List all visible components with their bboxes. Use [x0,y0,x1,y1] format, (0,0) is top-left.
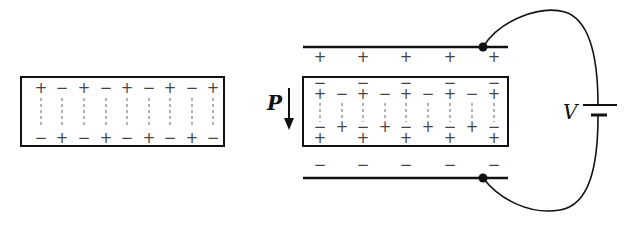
diagram-svg: +−+−+−+−+ −+−+−+−+− +++++ −−−−− −−−−− +−… [0,0,629,228]
charge-sign: + [35,79,48,97]
plate-charge-sign: − [488,156,501,174]
charge-sign: + [336,118,349,136]
right-capacitor: +++++ −−−−− −−−−− +−+−+−+−+ −+−+−+−+− ++… [266,10,617,211]
charge-sign: + [379,118,392,136]
surface-charge-sign: + [314,129,327,147]
charge-sign: + [400,85,413,103]
charge-sign: − [336,85,349,103]
battery-icon [583,105,617,115]
charge-sign: − [466,85,479,103]
polarization-label: P [266,91,283,115]
plate-charge-sign: + [314,48,327,66]
right-slab-top-signs: +−+−+−+−+ [314,85,501,103]
plate-charge-sign: − [400,156,413,174]
charge-sign: + [143,129,156,147]
charge-sign: + [164,79,177,97]
charge-sign: + [100,129,113,147]
left-bottom-signs: −+−+−+−+− [35,129,220,147]
surface-charge-sign: + [357,129,370,147]
charge-sign: + [422,118,435,136]
plate-charge-sign: + [357,48,370,66]
plate-charge-sign: + [488,48,501,66]
left-slab: +−+−+−+−+ −+−+−+−+− [21,77,224,147]
plate-charge-sign: + [400,48,413,66]
plate-charge-sign: − [444,156,457,174]
charge-sign: + [314,85,327,103]
voltage-label: V [563,100,580,124]
charge-sign: + [466,118,479,136]
charge-sign: − [164,129,177,147]
plate-charge-sign: + [444,48,457,66]
circuit-wire [479,10,599,211]
figure-canvas: +−+−+−+−+ −+−+−+−+− +++++ −−−−− −−−−− +−… [0,0,629,228]
surface-charge-sign: + [444,129,457,147]
surface-charge-sign: + [400,129,413,147]
charge-sign: + [488,85,501,103]
charge-sign: − [207,129,220,147]
charge-sign: + [207,79,220,97]
plate-charge-sign: − [357,156,370,174]
bottom-plate-signs: −−−−− [314,156,501,174]
charge-sign: + [121,79,134,97]
charge-sign: − [422,85,435,103]
charge-sign: − [143,79,156,97]
surface-charge-sign: + [488,129,501,147]
top-plate-signs: +++++ [314,48,501,66]
polarization-arrow-icon [284,88,294,130]
charge-sign: + [78,79,91,97]
charge-sign: − [379,85,392,103]
left-dipole-dashes [41,98,213,128]
charge-sign: − [186,79,199,97]
left-top-signs: +−+−+−+−+ [35,79,220,97]
charge-sign: + [56,129,69,147]
charge-sign: − [56,79,69,97]
charge-sign: − [78,129,91,147]
charge-sign: + [186,129,199,147]
charge-sign: + [357,85,370,103]
charge-sign: + [444,85,457,103]
plate-charge-sign: − [314,156,327,174]
charge-sign: − [121,129,134,147]
charge-sign: − [100,79,113,97]
charge-sign: − [35,129,48,147]
